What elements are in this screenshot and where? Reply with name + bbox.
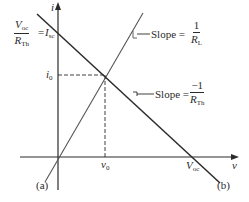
slope-triangle-b-icon — [133, 92, 137, 96]
voc-over-rth-fraction: Voc RTh — [14, 19, 29, 48]
y-axis-label: i — [51, 2, 54, 13]
isc-subscript: sc — [49, 32, 55, 40]
slope-thevenin-text: Slope = — [155, 89, 189, 100]
voc-axis-label: Voc — [186, 160, 199, 173]
rth-slope-symbol: R — [190, 93, 197, 105]
voc-subscript: oc — [22, 24, 29, 32]
slope-load-fraction: 1 RL — [191, 20, 202, 47]
rth-slope-subscript: Th — [197, 99, 205, 107]
equals-sign: = — [38, 27, 44, 38]
i0-subscript: 0 — [49, 74, 53, 82]
y-axis-arrow-icon — [55, 2, 61, 10]
slope-triangle-a-icon — [133, 31, 137, 38]
v0-subscript: 0 — [106, 164, 110, 172]
rl-symbol: R — [191, 33, 198, 45]
voc-axis-symbol: V — [186, 159, 193, 171]
curve-a-label: (a) — [36, 180, 48, 191]
slope-load-text: Slope = — [151, 29, 185, 40]
slope-load-numerator: 1 — [193, 20, 201, 33]
slope-thevenin-numerator: −1 — [190, 80, 204, 93]
rl-subscript: L — [198, 39, 202, 47]
isc-label: Isc — [45, 27, 55, 40]
slope-thevenin-fraction: −1 RTh — [190, 80, 205, 107]
x-axis-label: v — [232, 160, 237, 171]
v0-label: v0 — [101, 159, 109, 172]
curve-b-label: (b) — [217, 180, 230, 191]
rth-subscript: Th — [21, 40, 29, 48]
i0-label: i0 — [46, 69, 53, 82]
voc-axis-subscript: oc — [193, 165, 200, 173]
voc-symbol: V — [15, 18, 22, 30]
